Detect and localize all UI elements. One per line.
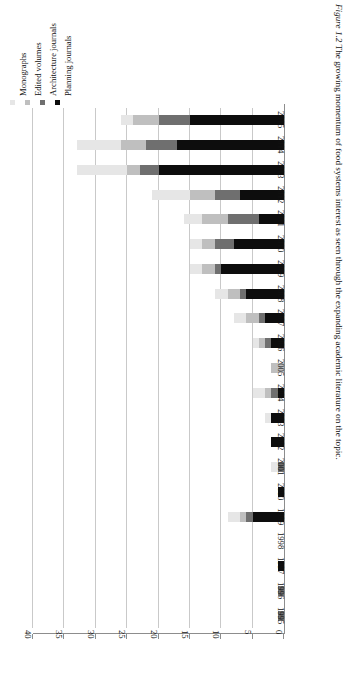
year-label-2010: 2010 — [276, 235, 286, 252]
legend-label-edited: Edited volumes — [33, 42, 43, 96]
bar-segment-edited — [190, 190, 215, 200]
bar-segment-planning — [159, 165, 285, 175]
bar-segment-monographs — [234, 313, 247, 323]
year-label-2006: 2006 — [276, 334, 286, 351]
bar-row — [33, 264, 284, 274]
stacked-bar — [152, 190, 284, 200]
bar-segment-monographs — [184, 214, 203, 224]
value-tick-label-0: 0 — [274, 630, 284, 634]
legend-label-architecture: Architecture journals — [48, 23, 58, 96]
bar-row — [33, 611, 284, 621]
bar-row — [33, 115, 284, 125]
legend-swatch-monographs-icon — [10, 100, 15, 105]
bar-segment-architecture — [140, 165, 159, 175]
bar-row — [33, 487, 284, 497]
chart-legend: MonographsEdited volumesArchitecture jou… — [0, 0, 120, 108]
legend-swatch-planning-icon — [55, 100, 60, 105]
value-tick-label-15: 15 — [180, 630, 190, 639]
bar-segment-monographs — [228, 512, 241, 522]
stacked-bar — [121, 115, 284, 125]
bar-segment-edited — [133, 115, 158, 125]
plot-area — [33, 108, 284, 628]
value-tick-0 — [283, 634, 284, 639]
bar-row — [33, 512, 284, 522]
year-label-2004: 2004 — [276, 384, 286, 401]
figure-caption-label: Figure 1.2 — [334, 4, 344, 42]
year-label-1998: 1998 — [276, 532, 286, 549]
year-label-2013: 2013 — [276, 161, 286, 178]
bar-segment-edited — [121, 140, 146, 150]
bar-segment-edited — [228, 289, 241, 299]
bar-segment-monographs — [77, 165, 127, 175]
bar-segment-edited — [202, 264, 215, 274]
year-label-1997: 1997 — [276, 557, 286, 574]
figure-caption-container: Figure 1.2 The growing momentum of food … — [318, 0, 351, 673]
year-label-1995: 1995 — [276, 607, 286, 624]
legend-label-planning: Planning journals — [63, 36, 73, 96]
value-tick-label-10: 10 — [211, 630, 221, 639]
legend-swatch-edited-icon — [25, 100, 30, 105]
bar-row — [33, 437, 284, 447]
bar-segment-monographs — [253, 388, 266, 398]
bar-segment-planning — [190, 115, 284, 125]
bar-segment-edited — [246, 313, 259, 323]
stacked-bar — [215, 289, 284, 299]
figure-caption: Figure 1.2 The growing momentum of food … — [333, 4, 344, 664]
year-label-1996: 1996 — [276, 582, 286, 599]
year-label-2000: 2000 — [276, 483, 286, 500]
legend-label-monographs: Monographs — [18, 53, 28, 96]
bar-segment-architecture — [228, 214, 259, 224]
stacked-bar — [77, 140, 284, 150]
bar-segment-architecture — [215, 239, 234, 249]
year-label-2003: 2003 — [276, 409, 286, 426]
year-label-1999: 1999 — [276, 508, 286, 525]
bar-segment-monographs — [215, 289, 228, 299]
bar-segment-edited — [202, 239, 215, 249]
stacked-bar — [190, 264, 284, 274]
bar-segment-monographs — [190, 239, 203, 249]
stacked-bar — [184, 214, 284, 224]
legend-swatch-architecture-icon — [40, 100, 45, 105]
year-label-2015: 2015 — [276, 111, 286, 128]
bar-segment-edited — [127, 165, 140, 175]
bar-row — [33, 214, 284, 224]
bar-row — [33, 363, 284, 373]
bar-segment-monographs — [190, 264, 203, 274]
bar-segment-architecture — [159, 115, 190, 125]
bar-segment-planning — [177, 140, 284, 150]
bar-segment-planning — [221, 264, 284, 274]
category-axis-labels: 1995199619971998199920002001200220032004… — [286, 108, 320, 628]
year-label-2005: 2005 — [276, 359, 286, 376]
value-tick-5 — [252, 634, 253, 639]
bar-row — [33, 536, 284, 546]
bar-segment-edited — [202, 214, 227, 224]
bar-row — [33, 413, 284, 423]
stacked-bar — [190, 239, 284, 249]
bar-row — [33, 190, 284, 200]
bar-row — [33, 165, 284, 175]
bar-segment-architecture — [146, 140, 177, 150]
bar-row — [33, 313, 284, 323]
value-tick-label-20: 20 — [149, 630, 159, 639]
figure-caption-text: The growing momentum of food systems int… — [334, 45, 344, 460]
bar-row — [33, 140, 284, 150]
year-label-2007: 2007 — [276, 309, 286, 326]
value-tick-label-30: 30 — [86, 630, 96, 639]
year-label-2002: 2002 — [276, 433, 286, 450]
value-tick-label-25: 25 — [117, 630, 127, 639]
year-label-2009: 2009 — [276, 260, 286, 277]
year-label-2014: 2014 — [276, 136, 286, 153]
bar-row — [33, 289, 284, 299]
bar-row — [33, 239, 284, 249]
bar-segment-monographs — [121, 115, 134, 125]
year-label-2008: 2008 — [276, 285, 286, 302]
bar-segment-architecture — [215, 190, 240, 200]
value-tick-label-35: 35 — [54, 630, 64, 639]
bar-row — [33, 586, 284, 596]
bar-segment-monographs — [152, 190, 190, 200]
year-label-2001: 2001 — [276, 458, 286, 475]
bar-segment-monographs — [77, 140, 121, 150]
value-tick-label-40: 40 — [23, 630, 33, 639]
bar-row — [33, 388, 284, 398]
year-label-2012: 2012 — [276, 186, 286, 203]
